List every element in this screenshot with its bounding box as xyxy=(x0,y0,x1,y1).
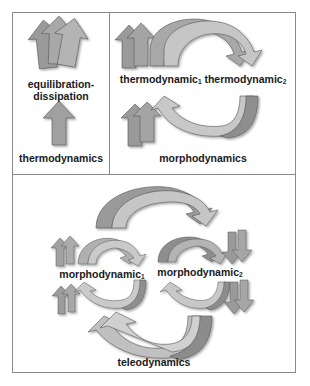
label-thermodynamic-1: thermodynamic xyxy=(120,73,198,85)
label-thermodynamics: thermodynamics xyxy=(12,152,110,164)
top-cycle-arrow-icon xyxy=(96,187,218,228)
morphodynamic2-lower-arrows-icon xyxy=(160,280,254,314)
subscript-1: 1 xyxy=(141,273,145,280)
label-teleodynamics: teleodynamics xyxy=(12,356,296,368)
morphodynamic2-upper-arrows-icon xyxy=(158,230,252,264)
label-morphodynamic-1-text: morphodynamic xyxy=(59,268,141,280)
label-line-1: equilibration- xyxy=(12,78,110,90)
equilibration-arrows-icon xyxy=(26,15,91,69)
morphodynamic1-lower-arrows-icon xyxy=(52,280,146,314)
label-morphodynamic-1: morphodynamic1 xyxy=(52,268,152,283)
diagram-graphics xyxy=(0,0,310,386)
subscript-2: 2 xyxy=(239,271,243,278)
label-thermodynamic-1-2: thermodynamic1 thermodynamic2 xyxy=(110,73,296,88)
label-morphodynamic-2: morphodynamic2 xyxy=(150,266,250,281)
subscript-2: 2 xyxy=(283,78,287,85)
label-morphodynamics: morphodynamics xyxy=(110,152,296,164)
morphodynamics-arrows-icon xyxy=(121,96,258,146)
thermodynamic-coupling-arrows-icon xyxy=(115,19,262,68)
label-line-2: dissipation xyxy=(12,90,110,102)
label-thermodynamic-2: thermodynamic xyxy=(202,73,283,85)
thermodynamics-arrow-icon xyxy=(43,101,75,145)
label-morphodynamic-2-text: morphodynamic xyxy=(157,266,239,278)
morphodynamic1-upper-arrows-icon xyxy=(51,236,146,266)
teleodynamics-cycle-arrow-icon xyxy=(88,312,212,360)
label-equilibration-dissipation: equilibration- dissipation xyxy=(12,78,110,102)
